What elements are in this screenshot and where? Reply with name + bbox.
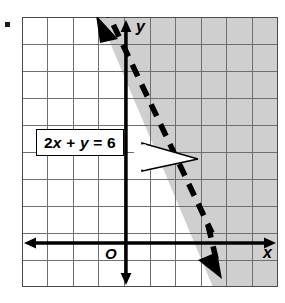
- origin-label: O: [105, 245, 117, 262]
- equation-callout: 2x + y = 6: [36, 129, 124, 156]
- y-axis-label: y: [136, 18, 145, 36]
- x-axis-label: x: [263, 244, 272, 262]
- equation-label: 2x + y = 6: [44, 135, 116, 151]
- inequality-graph-figure: 2x + y = 6 y x O: [0, 0, 285, 303]
- bullet-marker-icon: [5, 22, 10, 27]
